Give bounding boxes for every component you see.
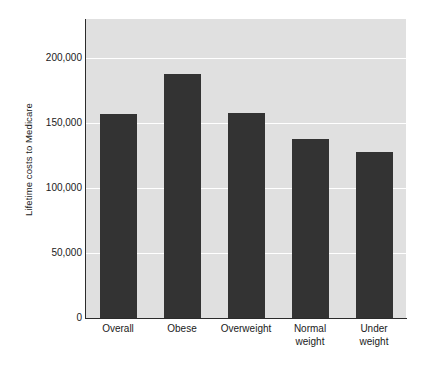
x-axis-tick-label: Overweight [214, 322, 278, 335]
y-axis-tick-label: 150,000 [8, 118, 82, 128]
x-axis-tick-label-line: weight [278, 335, 342, 348]
x-axis-tick-label: Normalweight [278, 322, 342, 348]
x-axis-tick-label-line: Normal [294, 323, 326, 334]
x-axis-tick-label-line: weight [342, 335, 406, 348]
x-axis-tick-label: Underweight [342, 322, 406, 348]
y-axis-tick-label: 0 [8, 313, 82, 323]
x-axis-tick-label-line: Obese [167, 323, 196, 334]
x-axis-tick-labels: OverallObeseOverweightNormalweightUnderw… [86, 322, 406, 366]
x-axis-tick-label-line: Overweight [221, 323, 272, 334]
bar [100, 114, 137, 318]
y-axis-tick-labels: 050,000100,000150,000200,000 [4, 0, 82, 371]
bar-chart: Lifetime costs to Medicare 050,000100,00… [0, 0, 424, 371]
bar [292, 139, 329, 318]
y-axis-tick-label: 100,000 [8, 183, 82, 193]
plot-area [86, 19, 406, 318]
x-axis-tick-label: Overall [86, 322, 150, 335]
bar [164, 74, 201, 318]
y-axis-tick-label: 50,000 [8, 248, 82, 258]
y-axis-tick-label: 200,000 [8, 53, 82, 63]
x-axis-tick-label: Obese [150, 322, 214, 335]
x-axis-tick-label-line: Overall [102, 323, 134, 334]
gridline [86, 58, 406, 59]
x-axis-line [85, 318, 407, 319]
bar [356, 152, 393, 318]
x-axis-tick-label-line: Under [360, 323, 387, 334]
bar [228, 113, 265, 318]
